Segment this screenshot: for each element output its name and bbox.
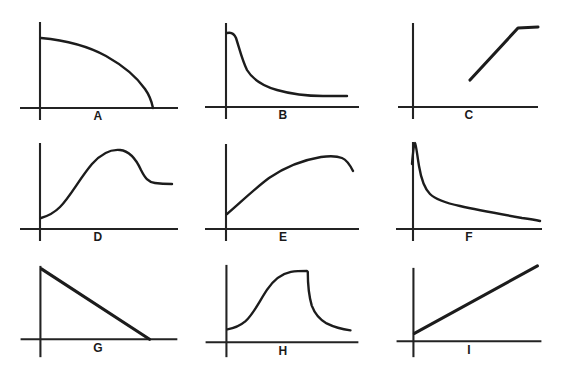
curve-g	[41, 269, 149, 339]
panel-h: H	[187, 252, 374, 378]
panel-label-h: H	[273, 345, 293, 357]
panel-label-f: F	[459, 231, 479, 243]
curve-b	[227, 33, 347, 96]
panel-b: B	[187, 0, 374, 126]
curve-f	[412, 143, 540, 221]
panel-label-a: A	[88, 110, 108, 122]
panel-label-g: G	[88, 342, 108, 354]
curve-e	[227, 156, 353, 214]
nine-panel-graph-figure: A B C D E	[0, 0, 561, 379]
curve-a	[41, 38, 153, 108]
panel-f: F	[374, 126, 561, 252]
panel-label-b: B	[273, 109, 293, 121]
panel-label-e: E	[273, 231, 293, 243]
panel-a: A	[0, 0, 187, 126]
panel-label-c: C	[459, 109, 479, 121]
panel-i: I	[374, 252, 561, 378]
panel-label-i: I	[459, 344, 479, 356]
curve-i	[414, 266, 537, 333]
panel-label-d: D	[88, 231, 108, 243]
panel-d: D	[0, 126, 187, 252]
curve-h	[227, 271, 350, 331]
panel-g: G	[0, 252, 187, 378]
curve-c	[470, 27, 538, 80]
curve-d	[41, 150, 172, 218]
panel-e: E	[187, 126, 374, 252]
panel-c: C	[374, 0, 561, 126]
